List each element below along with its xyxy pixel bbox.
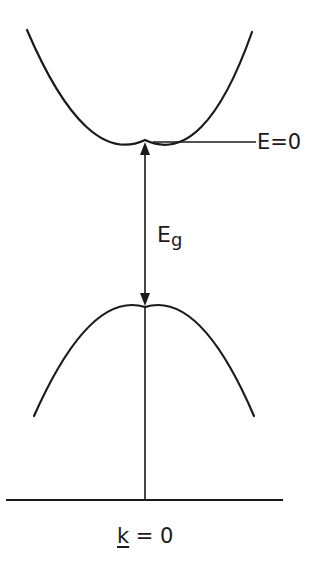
k-zero-label: k = 0 (117, 526, 173, 547)
band-diagram (0, 0, 319, 572)
band-gap-label: Eg (157, 224, 182, 246)
band-gap-arrow-up-head-icon (140, 142, 150, 155)
conduction-band-curve (27, 30, 252, 145)
k-vector-symbol: k (117, 524, 129, 548)
energy-zero-label: E=0 (257, 132, 301, 153)
band-gap-arrow-down-head-icon (140, 293, 150, 306)
band-gap-label-subscript: g (171, 229, 182, 250)
valence-band-curve (34, 305, 254, 416)
k-zero-equals: = 0 (129, 524, 173, 548)
band-gap-label-main: E (157, 222, 171, 247)
